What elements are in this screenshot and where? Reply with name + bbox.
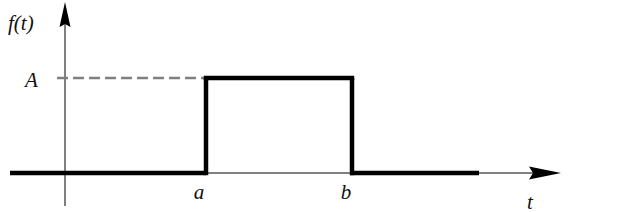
figure-canvas: f(t) A a b t (0, 0, 634, 212)
rectangular-pulse-figure: f(t) A a b t (0, 0, 634, 212)
t-axis-label: t (527, 190, 534, 212)
y-axis-label: f(t) (8, 11, 34, 35)
y-axis-arrowhead-icon (60, 2, 71, 27)
t-axis-arrowhead-icon (529, 167, 561, 180)
pulse-start-label: a (194, 180, 205, 204)
amplitude-label: A (23, 68, 38, 92)
pulse-end-label: b (341, 180, 352, 204)
